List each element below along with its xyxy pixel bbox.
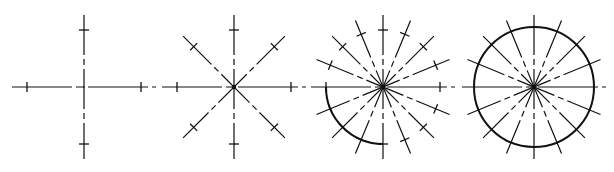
step-2 (162, 15, 306, 159)
center-point (83, 86, 85, 88)
diagram-svg (0, 0, 614, 172)
step-3 (311, 15, 455, 159)
step-4 (462, 15, 606, 159)
center-point (381, 85, 385, 89)
center-point (532, 85, 536, 89)
center-point (232, 85, 236, 89)
step-1 (12, 15, 156, 159)
circle-sketch-diagram (0, 0, 614, 172)
